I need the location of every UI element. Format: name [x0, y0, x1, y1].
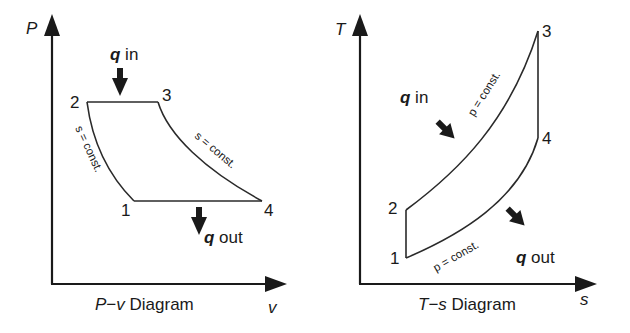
- pv-x-axis-arrowhead-icon: [265, 276, 287, 292]
- ts-x-axis-label: s: [580, 290, 589, 309]
- ts-curve-label-upper: p = const.: [466, 69, 503, 118]
- pv-y-axis-arrowhead-icon: [44, 14, 60, 36]
- ts-q-in-arrow-icon: [432, 116, 460, 144]
- ts-diagram-title: T−s Diagram: [418, 295, 516, 314]
- pv-x-axis-label: v: [268, 298, 278, 317]
- pv-q-out-label: q out: [204, 228, 243, 247]
- pv-point-2: 2: [70, 93, 79, 112]
- pv-point-3: 3: [162, 86, 171, 105]
- pv-q-in-label: q in: [110, 45, 138, 64]
- ts-q-out-arrow-icon: [502, 203, 530, 231]
- pv-point-4: 4: [264, 201, 273, 220]
- ts-point-4: 4: [542, 129, 551, 148]
- brayton-cycle-diagrams: P v 2 3 4 1 s = const. s = const. q in q…: [0, 0, 630, 333]
- ts-point-1: 1: [390, 249, 399, 268]
- pv-axes: [44, 14, 287, 292]
- ts-q-out-label: q out: [516, 248, 555, 267]
- ts-y-axis-arrowhead-icon: [352, 14, 368, 36]
- pv-curve-label-right: s = const.: [193, 129, 239, 170]
- pv-point-1: 1: [121, 201, 130, 220]
- pv-diagram-title: P−v Diagram: [95, 295, 194, 314]
- pv-cycle: [87, 102, 262, 201]
- pv-diagram: P v 2 3 4 1 s = const. s = const. q in q…: [26, 14, 287, 317]
- ts-y-axis-label: T: [335, 20, 347, 39]
- ts-point-3: 3: [542, 22, 551, 41]
- ts-diagram: T s 2 1 3 4 p = const. p = const. q in q…: [335, 14, 597, 314]
- pv-y-axis-label: P: [26, 19, 38, 38]
- ts-q-in-label: q in: [400, 88, 428, 107]
- pv-curve-label-left: s = const.: [73, 124, 105, 174]
- ts-point-2: 2: [388, 199, 397, 218]
- ts-cycle: [406, 31, 538, 258]
- ts-process-2-3: [406, 31, 538, 210]
- pv-q-in-arrow-icon: [112, 68, 128, 96]
